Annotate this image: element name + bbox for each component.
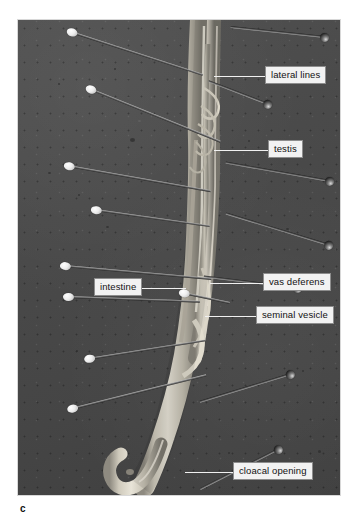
label-cloacal-opening: cloacal opening [233,462,313,480]
specimen-shadow [140,20,208,486]
leader-line-lateral-lines [214,76,265,77]
figure-caption-letter: c [20,503,26,514]
label-intestine: intestine [94,278,142,296]
specimen-photograph [18,20,340,495]
leader-line-cloacal-opening [185,472,233,473]
leader-line-intestine [140,288,186,289]
label-lateral-lines: lateral lines [265,66,326,84]
leader-line-testis [214,150,268,151]
label-vas-deferens: vas deferens [263,273,331,291]
nematode-specimen [18,20,340,495]
leader-line-vas-deferens [210,283,263,284]
figure-panel: lateral linestestisvas deferensseminal v… [0,0,352,527]
label-testis: testis [268,140,303,158]
leader-line-seminal-vesicle [205,316,256,317]
label-seminal-vesicle: seminal vesicle [256,306,334,324]
